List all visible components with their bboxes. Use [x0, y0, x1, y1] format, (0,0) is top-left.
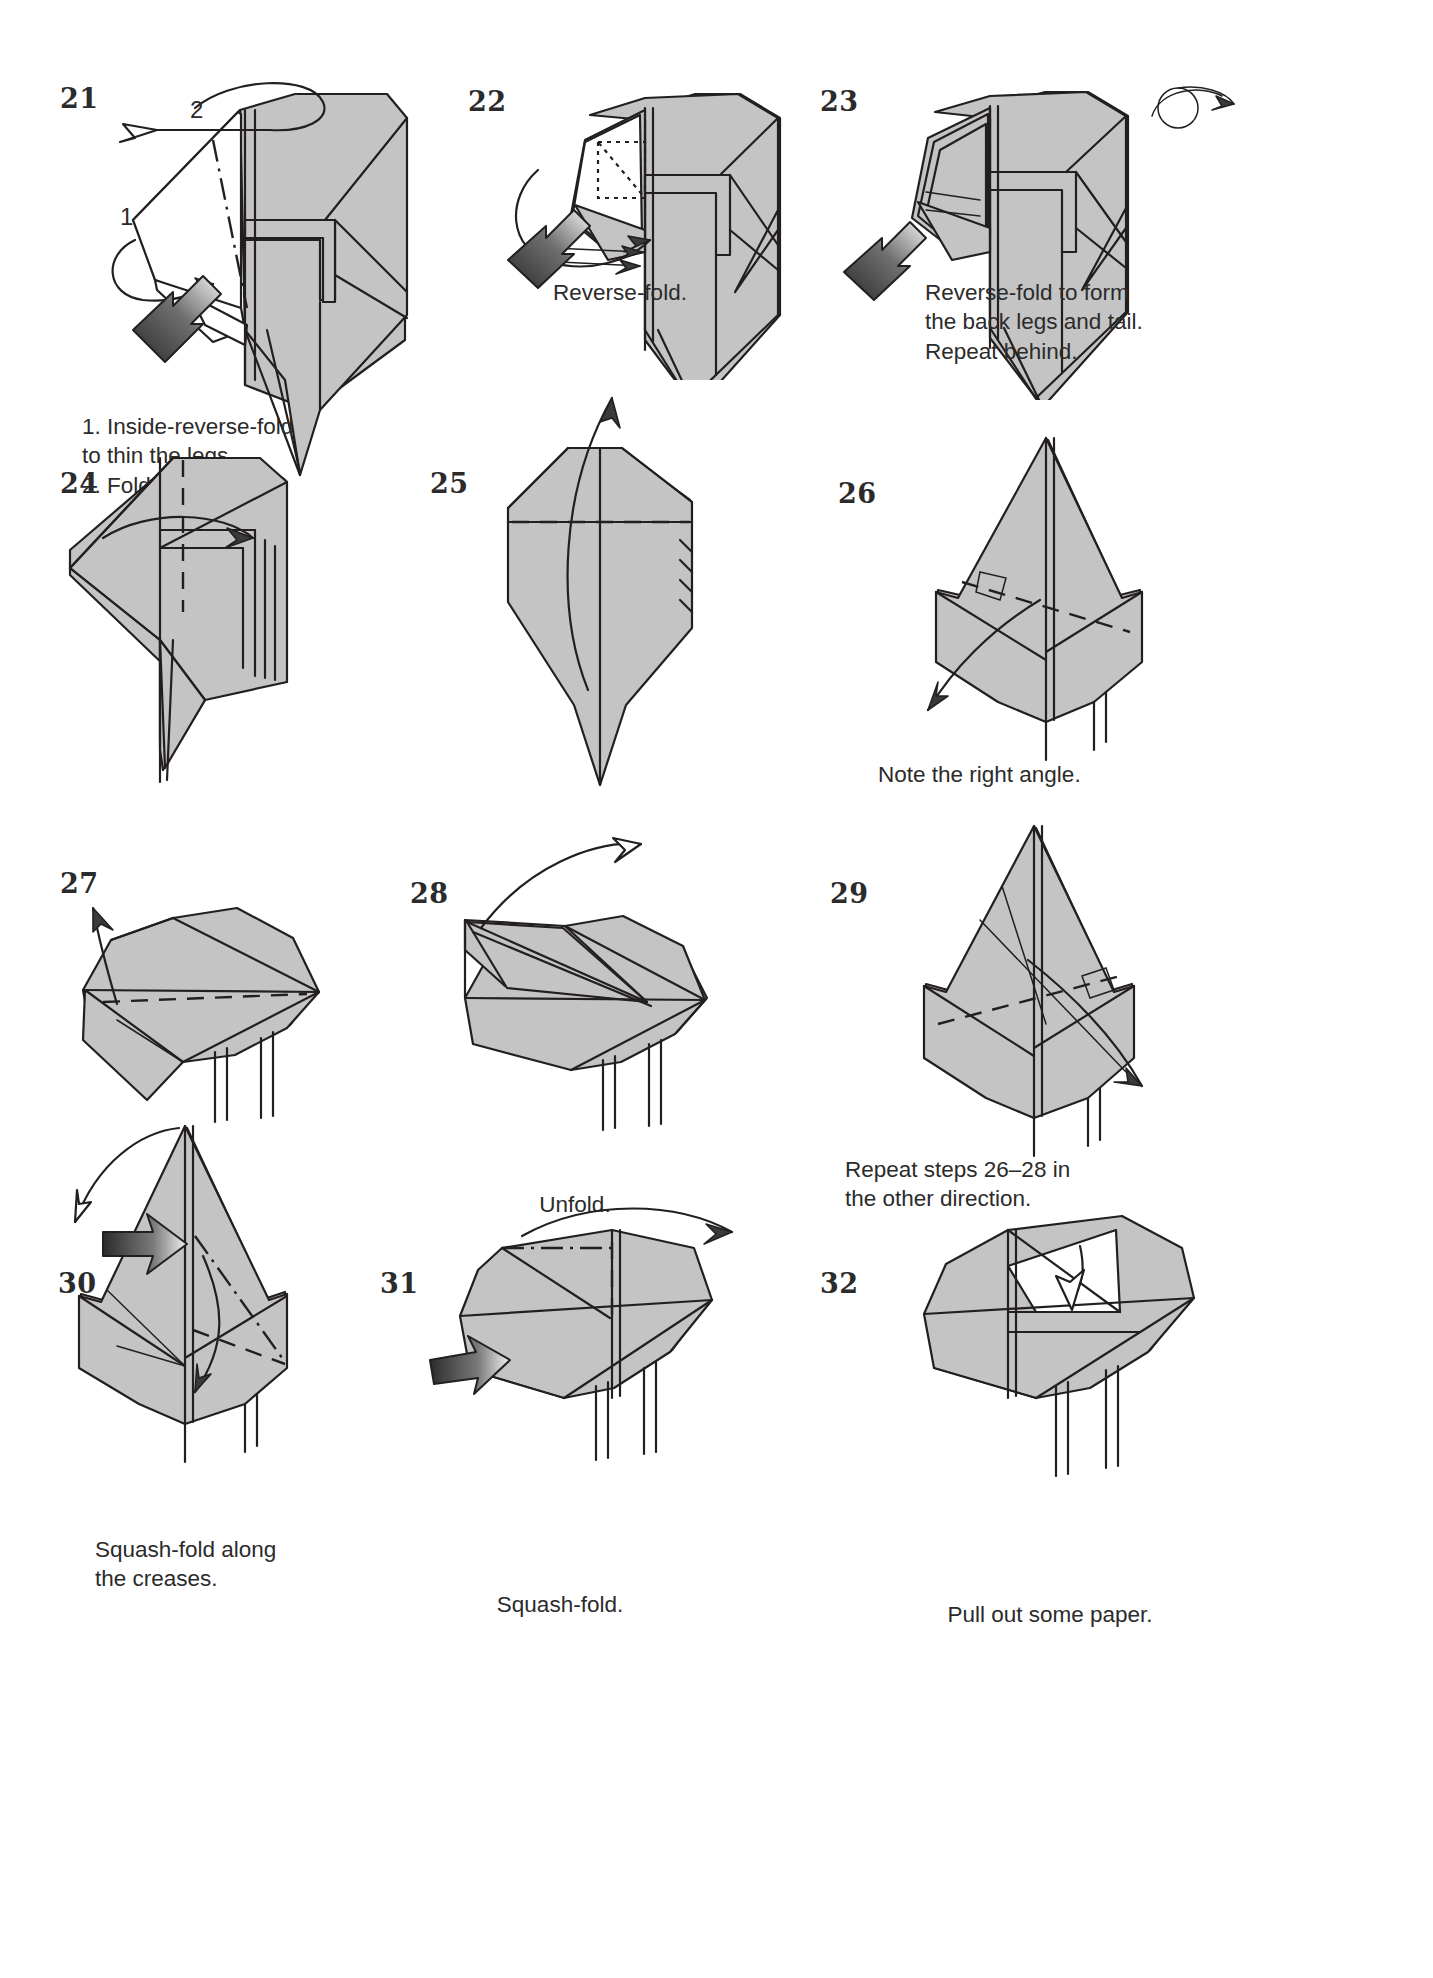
turn-over-arrowhead: [1212, 96, 1234, 110]
unfold-arrowhead-28: [613, 838, 641, 862]
step-30-figure: [55, 1110, 385, 1550]
step-31-caption: Squash-fold.: [390, 1590, 730, 1619]
fold-out-arrowhead: [120, 124, 157, 142]
turn-over-arc-1: [1152, 90, 1222, 116]
paper-body: [79, 1126, 287, 1424]
step-29: 29 Repeat steps 26–28 in the other direc…: [800, 790, 1430, 1230]
step-23-caption: Reverse-fold to form the back legs and t…: [925, 278, 1245, 366]
step-26-figure: [830, 420, 1250, 800]
step-24: 24: [0, 450, 440, 850]
push-in-arrow-23: [844, 222, 926, 300]
turn-over-circle: [1158, 88, 1198, 128]
step-28-figure: [415, 830, 755, 1160]
swing-arrow-line-31: [522, 1209, 732, 1237]
step-25-figure: [440, 360, 760, 820]
step-30-caption: Squash-fold along the creases.: [95, 1535, 415, 1594]
swing-arrowhead-31: [704, 1224, 732, 1244]
turn-over-symbol: [1152, 87, 1234, 128]
step-32: 32 Pull out some paper.: [790, 1200, 1430, 1670]
step-31-figure: [410, 1190, 760, 1540]
origami-instruction-page: 21: [0, 0, 1433, 1978]
step-24-figure: [55, 450, 355, 850]
step-31: 31: [370, 1190, 820, 1670]
step-32-figure: [840, 1200, 1240, 1560]
step-22-caption: Reverse-fold.: [470, 278, 770, 307]
fold-arrowhead-27: [93, 908, 113, 932]
paper-white-flap-2: [133, 112, 241, 308]
thin-arrowhead-2: [616, 260, 640, 274]
step-28: 28 Unfold.: [390, 830, 840, 1170]
step-23: 23: [810, 0, 1430, 420]
step-number-21: 21: [60, 85, 99, 112]
step-21-sublabel-1: 1: [120, 205, 134, 229]
paper-body: [936, 438, 1142, 722]
step-22-figure: [490, 80, 810, 380]
step-32-caption: Pull out some paper.: [850, 1600, 1250, 1629]
unfold-arrow-line-28: [481, 844, 641, 928]
step-26-caption: Note the right angle.: [878, 760, 1338, 789]
step-21-sublabel-2: 2: [190, 98, 204, 122]
step-25: 25: [400, 400, 850, 860]
